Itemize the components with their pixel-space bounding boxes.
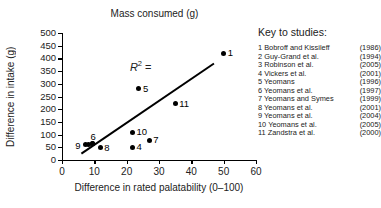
- x-tick-60: [256, 160, 257, 164]
- data-point-label-8: 8: [104, 143, 109, 153]
- y-tick-label-100: 100: [40, 130, 56, 140]
- legend-title: Key to studies:: [258, 26, 381, 38]
- x-tick-20: [127, 160, 128, 164]
- data-point-label-11: 11: [179, 99, 189, 109]
- x-tick-label-50: 50: [218, 167, 229, 177]
- data-point-8: [98, 145, 103, 150]
- x-tick-50: [224, 160, 225, 164]
- data-point-label-6: 6: [90, 132, 95, 142]
- chart-title: Mass consumed (g): [62, 8, 247, 19]
- plot-area: 050100150200250300350400450500 010203040…: [62, 33, 256, 160]
- y-tick-label-500: 500: [40, 28, 56, 38]
- data-point-label-4: 4: [136, 143, 141, 153]
- y-tick-label-400: 400: [40, 54, 56, 64]
- data-point-label-5: 5: [143, 84, 148, 94]
- x-tick-10: [94, 160, 95, 164]
- data-point-label-9: 9: [75, 142, 80, 152]
- legend-entry-name-11: 11 Zandstra et al.: [258, 129, 318, 138]
- x-tick-30: [159, 160, 160, 164]
- data-point-4: [130, 145, 135, 150]
- y-tick-label-250: 250: [40, 92, 56, 102]
- data-point-label-7: 7: [153, 135, 158, 145]
- y-tick-label-150: 150: [40, 117, 56, 127]
- data-point-7: [147, 138, 152, 143]
- data-point-11: [173, 101, 178, 106]
- x-tick-40: [191, 160, 192, 164]
- x-axis-label: Difference in rated palatability (0–100): [62, 182, 256, 193]
- y-tick-label-350: 350: [40, 66, 56, 76]
- y-tick-label-0: 0: [51, 155, 56, 165]
- x-tick-label-30: 30: [153, 167, 164, 177]
- x-tick-label-20: 20: [121, 167, 132, 177]
- scatter-plot-figure: Mass consumed (g) Difference in intake (…: [0, 0, 381, 208]
- data-point-1: [221, 51, 226, 56]
- data-point-10: [130, 130, 135, 135]
- x-tick-label-40: 40: [186, 167, 197, 177]
- data-point-label-10: 10: [136, 127, 147, 137]
- legend-entry-year-11: (2000): [360, 129, 381, 138]
- legend-entry-11: 11 Zandstra et al.(2000): [258, 129, 381, 138]
- x-tick-label-10: 10: [89, 167, 100, 177]
- legend: Key to studies: 1 Bobroff and Kissileff(…: [258, 26, 381, 138]
- y-tick-label-50: 50: [45, 143, 56, 153]
- x-tick-label-60: 60: [250, 167, 261, 177]
- legend-entries: 1 Bobroff and Kissileff(1986)2 Guy-Grand…: [258, 44, 381, 138]
- y-tick-label-300: 300: [40, 79, 56, 89]
- r-squared-annotation: R2 =: [130, 59, 152, 73]
- data-point-9: [83, 142, 88, 147]
- x-tick-label-0: 0: [59, 167, 65, 177]
- data-point-label-1: 1: [228, 49, 233, 59]
- y-axis-label: Difference in intake (g): [5, 33, 16, 160]
- y-tick-label-200: 200: [40, 104, 56, 114]
- x-tick-0: [62, 160, 63, 164]
- y-tick-label-450: 450: [40, 41, 56, 51]
